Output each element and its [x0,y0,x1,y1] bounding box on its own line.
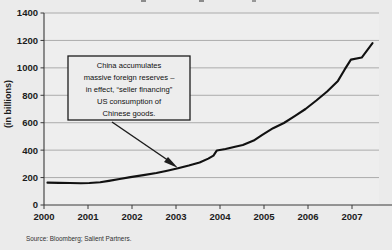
y-tick-label-1200: 1200 [17,35,38,46]
x-tick-label-2007: 2007 [341,211,362,222]
x-tick-label-2000: 2000 [33,211,54,222]
y-tick-label-800: 800 [22,90,38,101]
x-tick-label-2005: 2005 [253,211,275,222]
y-tick-label-1000: 1000 [17,62,38,73]
callout-line-3: in effect, “seller financing” [86,85,173,94]
x-tick-label-2006: 2006 [297,211,318,222]
x-tick-label-2001: 2001 [77,211,99,222]
y-tick-label-0: 0 [33,199,38,210]
x-tick-label-2004: 2004 [209,211,231,222]
y-tick-label-200: 200 [22,172,38,183]
y-tick-label-1400: 1400 [17,7,38,18]
y-tick-label-600: 600 [22,117,38,128]
chart-canvas: 1400 1200 1000 800 600 400 200 0 (in bil… [0,0,392,250]
y-axis-title: (in billions) [3,80,13,128]
china-reserves-callout: China accumulates massive foreign reserv… [68,56,190,120]
callout-line-5: Chinese goods. [103,109,156,118]
chart-figure: 1400 1200 1000 800 600 400 200 0 (in bil… [0,0,392,250]
source-note: Source: Bloomberg; Salient Partners. [26,235,132,243]
callout-line-1: China accumulates [97,61,162,70]
callout-line-2: massive foreign reserves – [84,73,176,82]
y-tick-label-400: 400 [22,145,38,156]
callout-line-4: US consumption of [97,97,162,106]
x-tick-label-2003: 2003 [165,211,186,222]
x-tick-label-2002: 2002 [121,211,142,222]
